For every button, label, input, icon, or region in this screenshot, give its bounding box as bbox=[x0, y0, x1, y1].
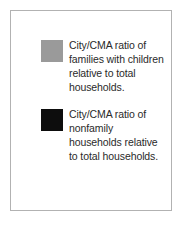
legend-entry-nonfamily-households: City/CMA ratio of nonfamily households r… bbox=[41, 107, 166, 163]
legend-label-nonfamily-households: City/CMA ratio of nonfamily households r… bbox=[69, 107, 166, 163]
gray-swatch bbox=[41, 40, 63, 62]
black-swatch bbox=[41, 109, 63, 131]
legend-entry-families-with-children: City/CMA ratio of families with children… bbox=[41, 38, 166, 94]
legend-list: City/CMA ratio of families with children… bbox=[41, 38, 166, 176]
legend-label-families-with-children: City/CMA ratio of families with children… bbox=[69, 38, 166, 94]
legend-frame: City/CMA ratio of families with children… bbox=[10, 10, 172, 211]
